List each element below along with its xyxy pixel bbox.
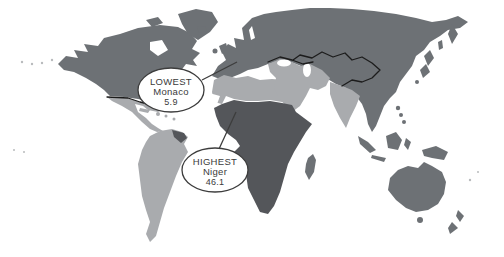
region-nz-south [448, 222, 458, 234]
black-sea [277, 60, 291, 67]
region-japan-kyushu [420, 64, 430, 78]
highest-country: Niger [203, 166, 227, 177]
region-philippines-3 [402, 120, 406, 124]
lowest-country: Monaco [153, 86, 189, 97]
region-ireland [213, 49, 218, 54]
region-java [371, 155, 386, 162]
highest-value: 46.1 [206, 177, 225, 187]
region-sulawesi [404, 138, 411, 150]
region-australia [388, 162, 446, 212]
region-sumatra [358, 136, 376, 153]
region-hispaniola [156, 112, 160, 116]
region-madagascar [305, 154, 316, 180]
region-south-america [138, 129, 188, 242]
region-new-guinea [422, 146, 448, 160]
region-nz-north [456, 210, 464, 222]
lowest-value: 5.9 [164, 97, 177, 107]
region-puerto-rico [165, 115, 168, 118]
region-tasmania [417, 217, 423, 223]
region-philippines-1 [396, 106, 400, 110]
region-sakhalin [438, 40, 443, 50]
region-borneo [386, 132, 402, 150]
world-map-figure: LOWEST Monaco 5.9 HIGHEST Niger 46.1 [0, 0, 504, 257]
region-japan-honshu [424, 50, 434, 66]
region-antilles [173, 118, 176, 121]
caspian-sea [303, 63, 311, 77]
region-japan-island [415, 80, 419, 84]
region-philippines-2 [399, 113, 403, 117]
world-map-svg: LOWEST Monaco 5.9 HIGHEST Niger 46.1 [0, 0, 504, 257]
